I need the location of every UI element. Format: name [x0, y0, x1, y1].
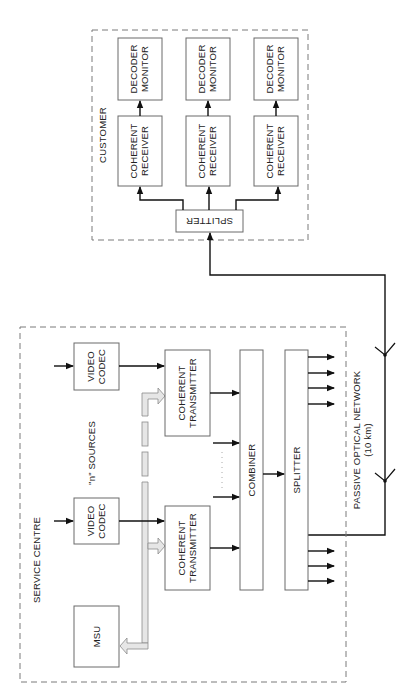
coherent-transmitter-1: COHERENT TRANSMITTER	[165, 350, 210, 436]
decoder-label: DECODER	[128, 45, 139, 94]
decoder-monitor-2: DECODER MONITOR	[186, 38, 230, 100]
service-centre-splitter: SPLITTER	[285, 350, 308, 590]
svg-text:MSU: MSU	[91, 626, 102, 648]
svg-text:RECEIVER: RECEIVER	[207, 126, 218, 176]
svg-text:RECEIVER: RECEIVER	[275, 126, 286, 176]
coherent-receiver-3: COHERENT RECEIVER	[254, 116, 298, 186]
svg-text:COHERENT: COHERENT	[176, 366, 187, 421]
decoder-monitor-3: DECODER MONITOR	[254, 38, 298, 100]
system-diagram: CUSTOMER DECODER MONITOR DECODER MONITOR…	[0, 0, 410, 693]
svg-text:COHERENT: COHERENT	[176, 521, 187, 576]
svg-text:TRANSMITTER: TRANSMITTER	[187, 358, 198, 428]
svg-text:CODEC: CODEC	[96, 349, 107, 384]
arrow-splitter-to-receiver1	[140, 187, 183, 210]
splitter-outputs-top	[308, 357, 334, 404]
pon-label: PASSIVE OPTICAL NETWORK	[351, 370, 362, 509]
monitor-label: MONITOR	[139, 46, 150, 92]
svg-text:COHERENT: COHERENT	[264, 124, 275, 179]
msu: MSU	[74, 606, 119, 667]
svg-text:DECODER: DECODER	[264, 45, 275, 94]
video-codec-1: VIDEO CODEC	[74, 343, 119, 390]
n-sources-label: "n" SOURCES	[86, 421, 97, 485]
svg-text:COMBINER: COMBINER	[246, 444, 257, 497]
svg-text:RECEIVER: RECEIVER	[139, 126, 150, 176]
svg-text:MONITOR: MONITOR	[275, 46, 286, 92]
customer-group-label: CUSTOMER	[97, 107, 108, 163]
customer-splitter-label: SPLITTER	[186, 216, 233, 227]
svg-text:SPLITTER: SPLITTER	[291, 447, 302, 494]
splitter-outputs-bottom	[308, 551, 334, 581]
svg-text:COHERENT: COHERENT	[196, 124, 207, 179]
arrow-splitter-to-receiver3	[236, 187, 278, 210]
coherent-receiver-1: COHERENT RECEIVER	[118, 116, 162, 186]
service-centre-group-label: SERVICE CENTRE	[31, 517, 42, 603]
svg-text:MONITOR: MONITOR	[207, 46, 218, 92]
svg-text:VIDEO: VIDEO	[85, 351, 96, 382]
svg-text:DECODER: DECODER	[196, 45, 207, 94]
svg-text:COHERENT: COHERENT	[128, 124, 139, 179]
svg-text:VIDEO: VIDEO	[85, 506, 96, 537]
coherent-transmitter-2: COHERENT TRANSMITTER	[165, 506, 210, 590]
video-codec-2: VIDEO CODEC	[74, 498, 119, 544]
decoder-monitor-1: DECODER MONITOR	[118, 38, 162, 100]
svg-text:CODEC: CODEC	[96, 503, 107, 538]
combiner: COMBINER	[240, 350, 263, 590]
coherent-receiver-2: COHERENT RECEIVER	[186, 116, 230, 186]
svg-text:TRANSMITTER: TRANSMITTER	[187, 513, 198, 583]
pon-distance-label: (10 km)	[362, 423, 373, 457]
customer-splitter: SPLITTER	[176, 210, 243, 232]
